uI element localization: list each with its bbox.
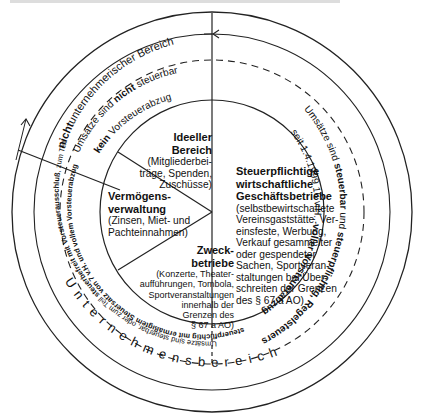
segment-desc: träge, Spenden, (132, 168, 212, 180)
segment-title: verwaltung (108, 203, 228, 216)
segment-title: Ideeller (132, 131, 212, 144)
segment-title: betriebe (130, 257, 234, 270)
segment-title: wirtschaftliche (236, 178, 366, 191)
segment-desc: (Konzerte, Theater- (130, 269, 234, 279)
segment-desc: schreiten der Grenzen (236, 283, 366, 295)
segment-title: Zweck- (130, 244, 234, 257)
segment-title: Steuerpflichtige (236, 165, 366, 178)
segment-desc: oder gespendeter (236, 249, 366, 261)
segment-ideeller-bereich: Ideeller Bereich (Mitgliederbei- träge, … (132, 131, 212, 191)
segment-desc: Sachen, Sportveran- (236, 260, 366, 272)
segment-desc: Grenzen des (130, 310, 234, 320)
segment-desc: (Zinsen, Miet- und (108, 215, 228, 227)
segment-desc: § 67 a AO) (130, 320, 234, 330)
segment-title: Bereich (132, 144, 212, 157)
segment-title: Vermögens- (108, 190, 228, 203)
segment-title: Geschäftsbetriebe (236, 190, 366, 203)
segment-vermoegensverwaltung: Vermögens- verwaltung (Zinsen, Miet- und… (108, 190, 228, 238)
segment-desc: Sportveranstaltungen (130, 290, 234, 300)
segment-desc: Verkauf gesammelter (236, 237, 366, 249)
segment-desc: (selbstbewirtschaftete (236, 203, 366, 215)
segment-desc: (Mitgliederbei- (132, 156, 212, 168)
segment-desc: innerhalb der (130, 300, 234, 310)
segment-desc: Zuschüsse) (132, 179, 212, 191)
segment-desc: Pachteinnahmen) (108, 227, 228, 239)
segment-zweckbetriebe: Zweck- betriebe (Konzerte, Theater- auff… (130, 244, 234, 331)
segment-desc: des § 67 a AO) (236, 295, 366, 307)
segment-desc: aufführungen, Tombola, (130, 279, 234, 289)
segment-desc: Vereinsgaststätte, Ver- (236, 214, 366, 226)
segment-desc: einsfeste, Werbung, (236, 226, 366, 238)
segment-steuerpflichtige-geschaeftsbetriebe: Steuerpflichtige wirtschaftliche Geschäf… (236, 165, 366, 306)
segment-desc: staltungen bei Über- (236, 272, 366, 284)
